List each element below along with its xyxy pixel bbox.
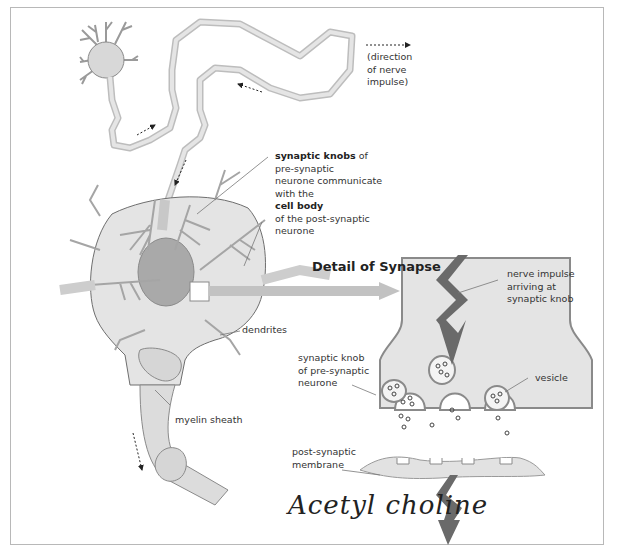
myelin-sheath: [139, 348, 228, 505]
post-synaptic-membrane-label: post-synaptic membrane: [292, 446, 356, 471]
synapse-detail-title: Detail of Synapse: [312, 259, 441, 274]
synaptic-knob-label: synaptic knob of pre-synaptic neurone: [298, 352, 369, 390]
direction-label: (direction of nerve impulse): [367, 51, 412, 89]
nucleus: [138, 238, 194, 306]
synaptic-knobs-label: synaptic knobs of pre-synaptic neurone c…: [275, 150, 382, 238]
nerve-impulse-label: nerve impulse arriving at synaptic knob: [507, 268, 575, 306]
zoom-box: [190, 282, 209, 301]
myelin-sheath-label: myelin sheath: [175, 414, 242, 427]
dendrites-label: dendrites: [242, 324, 287, 337]
handwritten-annotation: Acetyl choline: [288, 490, 488, 520]
vesicle-label: vesicle: [535, 372, 568, 385]
pre-synaptic-cell-body: [80, 22, 138, 84]
